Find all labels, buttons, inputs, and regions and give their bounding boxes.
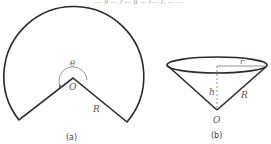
figure-b-cone: r h R O (b)	[167, 57, 267, 140]
cut-off-text: ... g ... ) ... g ... (... ), ... ...	[95, 0, 183, 5]
figure-a-sector: θ O R (a)	[4, 6, 144, 142]
diagram-canvas: ... g ... ) ... g ... (... ), ... ... θ …	[0, 0, 271, 144]
caption-b: (b)	[211, 131, 222, 140]
slant-label: R	[240, 90, 248, 100]
apex-label: O	[213, 115, 221, 125]
angle-label: θ	[70, 59, 75, 68]
height-label: h	[209, 87, 215, 97]
radius-label: R	[92, 104, 100, 114]
caption-a: (a)	[66, 133, 77, 142]
center-label: O	[69, 82, 77, 92]
